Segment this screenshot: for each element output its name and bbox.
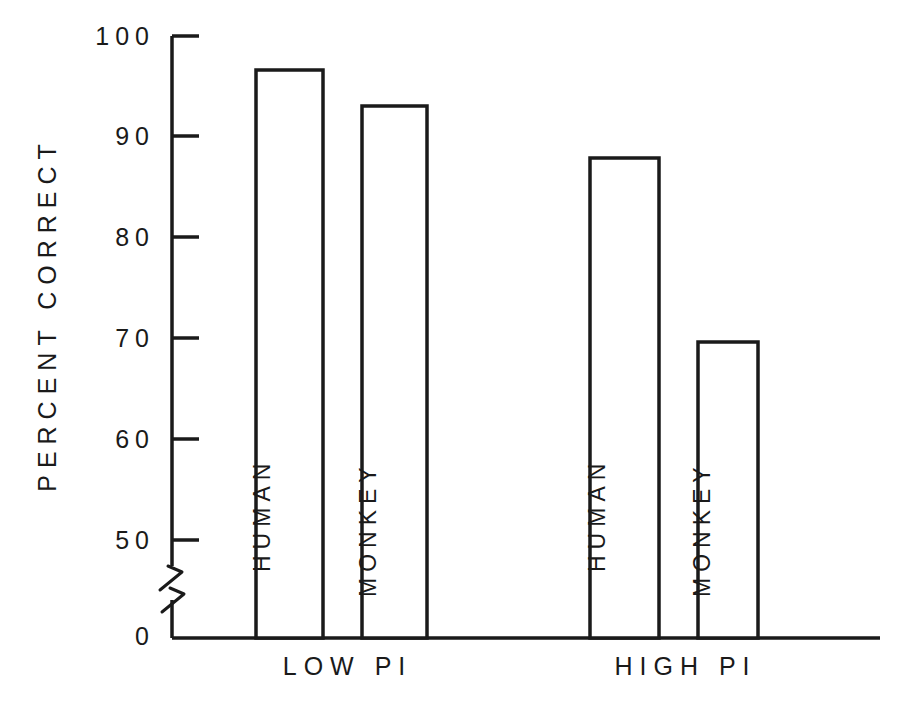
y-tick-label-0: 0 [40, 622, 155, 651]
y-tick-label-50: 50 [40, 526, 155, 555]
y-tick-label-90: 90 [40, 122, 155, 151]
y-tick-label-80: 80 [40, 223, 155, 252]
y-tick-marks [172, 36, 199, 540]
bar-chart-figure: PERCENT CORRECT 100 90 80 70 60 50 0 HUM… [0, 0, 901, 702]
bar-label-low-pi-monkey: MONKEY [355, 461, 382, 597]
y-tick-label-100: 100 [40, 22, 155, 51]
x-category-label-high-pi: HIGH PI [578, 652, 793, 681]
bar-label-high-pi-monkey: MONKEY [689, 461, 716, 597]
y-tick-label-70: 70 [40, 324, 155, 353]
axis-break-upper-icon [160, 566, 182, 590]
y-tick-label-60: 60 [40, 425, 155, 454]
bar-label-high-pi-human: HUMAN [584, 458, 611, 572]
x-category-label-low-pi: LOW PI [240, 652, 455, 681]
bar-label-low-pi-human: HUMAN [249, 458, 276, 572]
y-axis-title: PERCENT CORRECT [33, 85, 62, 545]
